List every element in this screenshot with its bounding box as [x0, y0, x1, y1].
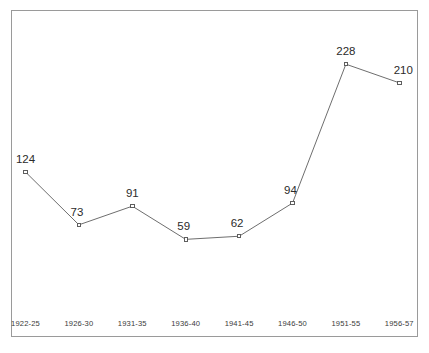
x-tick-label-1951-55: 1951-55: [331, 319, 360, 328]
data-value-label: 91: [126, 187, 139, 199]
data-point-marker: [344, 62, 347, 65]
data-value-labels: 1247391596294228210: [16, 45, 413, 232]
plot-frame: [12, 11, 418, 337]
data-value-label: 210: [394, 64, 413, 76]
x-tick-label-1941-45: 1941-45: [225, 319, 254, 328]
x-tick-label-1936-40: 1936-40: [171, 319, 200, 328]
data-point-marker: [398, 81, 401, 84]
x-axis-tick-labels: 1922-251926-301931-351936-401941-451946-…: [11, 319, 414, 328]
data-value-label: 62: [231, 217, 244, 229]
data-point-marker: [184, 238, 187, 241]
x-tick-label-1946-50: 1946-50: [278, 319, 307, 328]
data-value-label: 59: [177, 220, 190, 232]
data-point-marker: [24, 170, 27, 173]
x-tick-label-1926-30: 1926-30: [64, 319, 93, 328]
line-chart: 1247391596294228210 1922-251926-301931-3…: [0, 0, 429, 353]
x-tick-label-1956-57: 1956-57: [385, 319, 414, 328]
data-point-marker: [131, 204, 134, 207]
x-tick-label-1922-25: 1922-25: [11, 319, 40, 328]
data-value-label: 73: [71, 206, 84, 218]
x-tick-label-1931-35: 1931-35: [118, 319, 147, 328]
chart-canvas: 1247391596294228210 1922-251926-301931-3…: [0, 0, 429, 353]
data-value-label: 228: [336, 45, 355, 57]
data-value-label: 124: [16, 153, 36, 165]
data-value-label: 94: [284, 184, 297, 196]
data-point-marker: [237, 235, 240, 238]
data-point-marker: [291, 201, 294, 204]
data-point-marker: [77, 223, 80, 226]
